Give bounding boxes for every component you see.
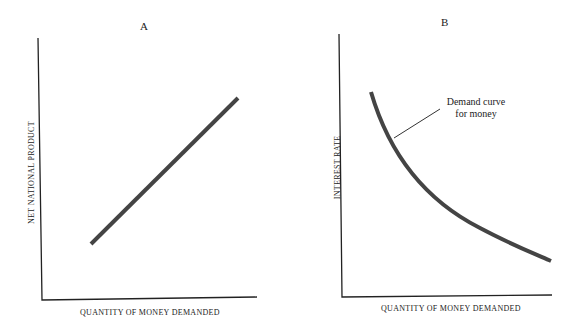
chart-a-xlabel: QUANTITY OF MONEY DEMANDED <box>80 308 220 317</box>
chart-a-axes <box>38 38 257 300</box>
chart-b-annotation: Demand curve for money <box>436 96 516 120</box>
chart-b-xlabel: QUANTITY OF MONEY DEMANDED <box>381 304 521 313</box>
annotation-line-1: Demand curve <box>436 96 516 108</box>
chart-a-line <box>91 98 238 244</box>
annotation-line-2: for money <box>436 108 516 120</box>
chart-b-title: B <box>441 16 448 28</box>
chart-b-annotation-leader <box>394 109 440 138</box>
charts-canvas <box>0 0 570 326</box>
chart-a-title: A <box>140 20 148 32</box>
chart-b-axes <box>339 34 552 297</box>
chart-b-ylabel: INTEREST RATE <box>333 118 342 218</box>
chart-a-ylabel: NET NATIONAL PRODUCT <box>27 108 36 238</box>
